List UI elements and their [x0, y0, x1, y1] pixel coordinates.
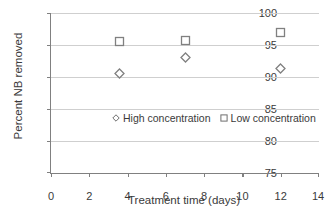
- chart-figure: Percent NB removed 100 95 90 85 80 75 0 …: [0, 0, 333, 213]
- square-open-icon: [220, 112, 228, 124]
- x-tick-2: [89, 173, 90, 177]
- y-tick-80: [47, 141, 51, 142]
- diamond-open-icon: [112, 112, 120, 124]
- x-tick-8: [204, 173, 205, 177]
- x-axis-title: Treatment time (days): [50, 194, 318, 206]
- x-tick-12: [281, 173, 282, 177]
- gridline-90: [51, 77, 319, 78]
- gridline-80: [51, 141, 319, 142]
- x-tick-0: [51, 173, 52, 177]
- data-point-low-3: [275, 27, 286, 38]
- data-point-low-2: [180, 35, 191, 46]
- gridline-85: [51, 109, 319, 110]
- data-point-high-2: [180, 52, 191, 63]
- data-point-high-1: [114, 68, 125, 79]
- legend-item-high-concentration: High concentration: [112, 112, 211, 124]
- x-tick-14: [318, 173, 319, 177]
- legend-label-high-concentration: High concentration: [123, 112, 211, 124]
- x-tick-10: [242, 173, 243, 177]
- legend: High concentration Low concentration: [112, 112, 316, 124]
- y-tick-85: [47, 109, 51, 110]
- x-tick-4: [128, 173, 129, 177]
- legend-label-low-concentration: Low concentration: [231, 112, 316, 124]
- x-tick-6: [166, 173, 167, 177]
- y-axis-title: Percent NB removed: [12, 6, 24, 166]
- gridline-100: [51, 13, 319, 14]
- y-tick-95: [47, 45, 51, 46]
- data-point-low-1: [114, 36, 125, 47]
- legend-item-low-concentration: Low concentration: [220, 112, 316, 124]
- y-tick-100: [47, 13, 51, 14]
- data-point-high-3: [275, 63, 286, 74]
- y-tick-90: [47, 77, 51, 78]
- plot-area: 0 2 4 6 8 10 12 14: [50, 13, 319, 174]
